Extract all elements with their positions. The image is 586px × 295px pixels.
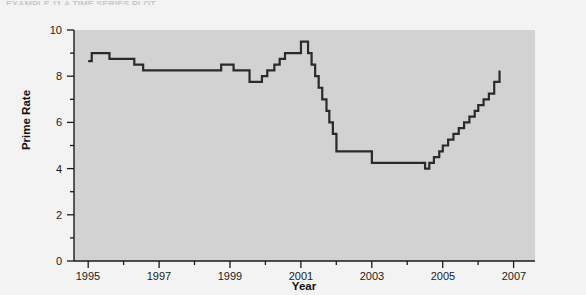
prime-rate-series <box>88 42 499 169</box>
ytick-label-0: 0 <box>22 255 62 267</box>
chart-graphics <box>0 6 586 295</box>
xtick-label-2005: 2005 <box>413 270 473 282</box>
cropped-caption: EXAMPLE 11 A TIME SERIES PLOT <box>6 0 236 5</box>
ytick-label-10: 10 <box>22 24 62 36</box>
ytick-label-2: 2 <box>22 209 62 221</box>
y-axis-title: Prime Rate <box>20 75 32 165</box>
xtick-label-2007: 2007 <box>484 270 544 282</box>
x-axis-ticks <box>88 261 513 268</box>
x-axis-title: Year <box>244 280 364 292</box>
xtick-label-1995: 1995 <box>58 270 118 282</box>
y-axis-ticks <box>67 30 74 261</box>
figure-page: EXAMPLE 11 A TIME SERIES PLOT <box>0 0 586 295</box>
time-series-chart: 10 8 6 4 2 0 1995 1997 1999 2001 2003 20… <box>0 6 586 295</box>
xtick-label-1997: 1997 <box>129 270 189 282</box>
